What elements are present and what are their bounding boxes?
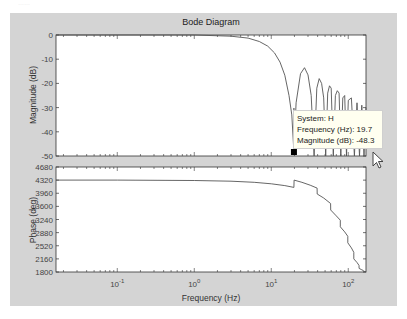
datatip-system: System: H xyxy=(297,113,379,124)
y-tick-label: 3600 xyxy=(35,202,53,211)
datatip-marker[interactable] xyxy=(291,149,297,155)
y-tick-label: 2160 xyxy=(35,255,53,264)
y-tick-label: 4680 xyxy=(35,163,53,172)
phase-axes[interactable]: 468043203960360032402880252021601800 xyxy=(35,163,366,277)
y-tick-label: 2880 xyxy=(35,229,53,238)
x-tick-label: 102 xyxy=(342,278,355,289)
mouse-cursor-icon xyxy=(372,151,386,171)
y-tick-label: -30 xyxy=(41,104,53,113)
y-tick-label: -50 xyxy=(41,152,53,161)
y-tick-label: -40 xyxy=(41,128,53,137)
y-tick-label: 4320 xyxy=(35,176,53,185)
y-tick-label: 2520 xyxy=(35,242,53,251)
datatip-frequency: Frequency (Hz): 19.7 xyxy=(297,124,379,135)
bode-plot[interactable]: 0-10-20-30-40-50468043203960360032402880… xyxy=(0,0,407,319)
y-tick-label: 1800 xyxy=(35,268,53,277)
x-tick-label: 101 xyxy=(265,278,278,289)
y-tick-label: -20 xyxy=(41,79,53,88)
y-tick-label: 0 xyxy=(49,31,54,40)
y-tick-label: 3960 xyxy=(35,189,53,198)
y-tick-label: -10 xyxy=(41,55,53,64)
x-tick-label: 10-1 xyxy=(110,278,125,289)
y-tick-label: 3240 xyxy=(35,216,53,225)
datatip-magnitude: Magnitude (dB): -48.3 xyxy=(297,135,379,146)
data-tip[interactable]: System: H Frequency (Hz): 19.7 Magnitude… xyxy=(293,110,383,149)
x-tick-label: 100 xyxy=(188,278,201,289)
